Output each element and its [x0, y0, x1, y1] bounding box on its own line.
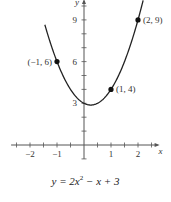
y-axis-arrow-icon [82, 0, 86, 4]
x-tick-label: 1 [109, 149, 114, 159]
equation-caption: y = 2x2 − x + 3 [0, 174, 171, 187]
x-tick-label: −2 [25, 149, 35, 159]
data-point [108, 87, 113, 92]
point-label: (−1, 6) [27, 57, 52, 67]
y-tick-label: 9 [73, 15, 78, 25]
caption-suffix: − x + 3 [83, 175, 119, 187]
y-tick-label: 3 [73, 98, 78, 108]
x-tick-label: −1 [52, 149, 62, 159]
x-axis-label: x [158, 146, 163, 156]
y-tick-label: 6 [73, 57, 78, 67]
x-tick-label: 2 [136, 149, 141, 159]
point-label: (1, 4) [116, 84, 136, 94]
data-point [135, 17, 140, 22]
parabola-chart: −2−112369xy (−1, 6)(1, 4)(2, 9) [0, 0, 171, 202]
caption-prefix: y = 2x [52, 175, 80, 187]
point-label: (2, 9) [143, 15, 163, 25]
labeled-points: (−1, 6)(1, 4)(2, 9) [27, 15, 162, 95]
y-axis-label: y [74, 0, 79, 7]
data-point [54, 59, 59, 64]
axes: −2−112369xy [11, 0, 163, 159]
